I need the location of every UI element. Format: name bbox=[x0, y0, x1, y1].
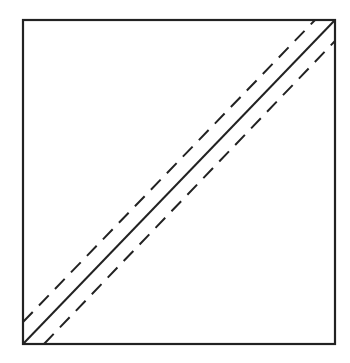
lower-dashed-line bbox=[44, 41, 335, 344]
main-diagonal-line bbox=[23, 20, 335, 344]
upper-dashed-line bbox=[23, 20, 315, 322]
diagram-canvas bbox=[0, 0, 350, 363]
